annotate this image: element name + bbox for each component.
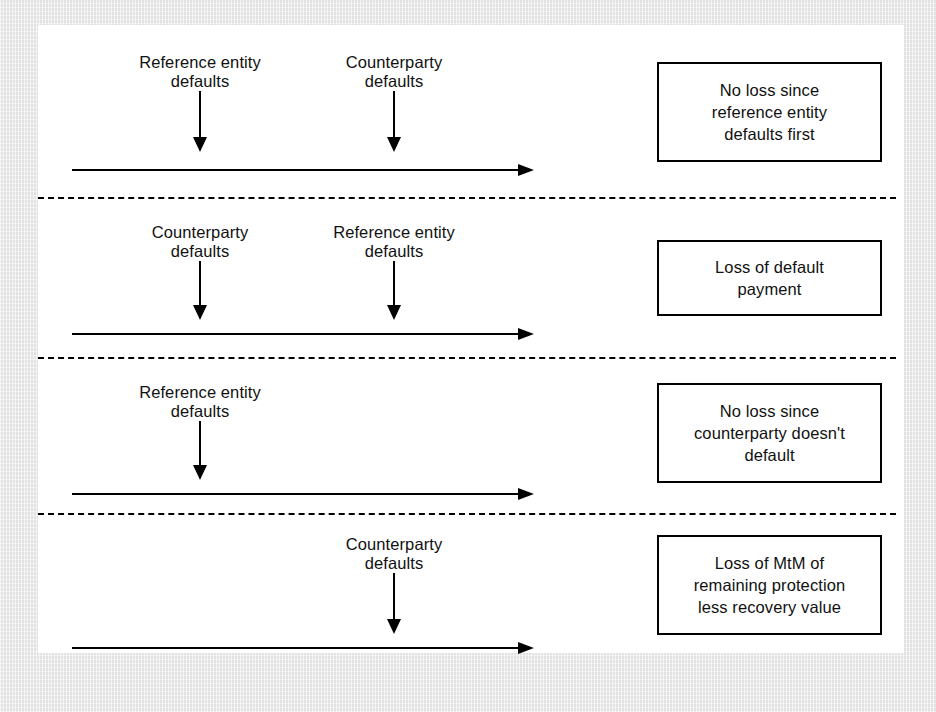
event-label: Counterparty defaults xyxy=(309,535,479,573)
event-label: Counterparty defaults xyxy=(309,53,479,91)
timeline-arrowhead-icon xyxy=(518,164,534,176)
timeline-arrowhead-icon xyxy=(518,488,534,500)
outcome-box-1: No loss since reference entity defaults … xyxy=(657,62,882,162)
down-arrow-icon xyxy=(386,261,402,321)
outcome-text: Loss of default payment xyxy=(715,256,824,300)
outcome-text: No loss since counterparty doesn't defau… xyxy=(694,400,845,466)
event-marker-reference-entity-default: Reference entity defaults xyxy=(115,383,285,481)
event-label: Reference entity defaults xyxy=(115,383,285,421)
down-arrow-icon xyxy=(192,91,208,153)
timeline-axis xyxy=(72,647,534,649)
event-marker-reference-entity-default: Reference entity defaults xyxy=(309,223,479,321)
scenario-panel-4: Counterparty defaults Loss of MtM of rem… xyxy=(38,513,904,653)
timeline-line xyxy=(72,333,520,335)
outcome-box-3: No loss since counterparty doesn't defau… xyxy=(657,383,882,483)
outcome-box-2: Loss of default payment xyxy=(657,240,882,316)
timeline-axis xyxy=(72,493,534,495)
down-arrow-icon xyxy=(386,91,402,153)
timeline-line xyxy=(72,493,520,495)
timeline-arrowhead-icon xyxy=(518,328,534,340)
timeline-axis xyxy=(72,333,534,335)
timeline-arrowhead-icon xyxy=(518,642,534,654)
scenario-panel-3: Reference entity defaults No loss since … xyxy=(38,357,904,513)
outcome-text: Loss of MtM of remaining protection less… xyxy=(694,552,846,618)
timeline-line xyxy=(72,169,520,171)
event-marker-counterparty-default: Counterparty defaults xyxy=(115,223,285,321)
down-arrow-icon xyxy=(192,261,208,321)
timeline-axis xyxy=(72,169,534,171)
down-arrow-icon xyxy=(192,421,208,481)
figure-sheet: Reference entity defaults Counterparty d… xyxy=(38,25,904,653)
outcome-text: No loss since reference entity defaults … xyxy=(712,79,827,145)
event-label: Counterparty defaults xyxy=(115,223,285,261)
scenario-panel-2: Counterparty defaults Reference entity d… xyxy=(38,197,904,357)
down-arrow-icon xyxy=(386,573,402,635)
event-label: Reference entity defaults xyxy=(309,223,479,261)
event-marker-counterparty-default: Counterparty defaults xyxy=(309,53,479,153)
outcome-box-4: Loss of MtM of remaining protection less… xyxy=(657,535,882,635)
scenario-panel-1: Reference entity defaults Counterparty d… xyxy=(38,25,904,197)
timeline-line xyxy=(72,647,520,649)
event-marker-counterparty-default: Counterparty defaults xyxy=(309,535,479,635)
event-label: Reference entity defaults xyxy=(115,53,285,91)
event-marker-reference-entity-default: Reference entity defaults xyxy=(115,53,285,153)
